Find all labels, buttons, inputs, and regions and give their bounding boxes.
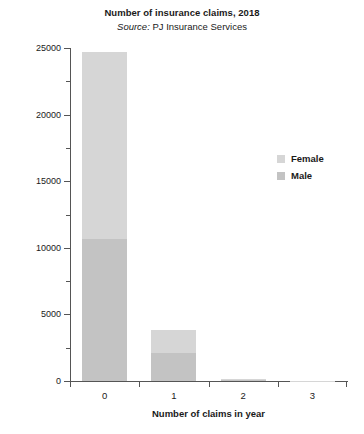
y-axis-tick bbox=[64, 181, 70, 182]
chart-title: Number of insurance claims, 2018 bbox=[0, 6, 364, 19]
y-axis-minor-tick bbox=[66, 348, 70, 349]
bar-segment-male[interactable] bbox=[82, 239, 127, 381]
insurance-claims-chart: Number of insurance claims, 2018 Source:… bbox=[0, 0, 364, 434]
y-axis-tick bbox=[64, 48, 70, 49]
bar-segment-female[interactable] bbox=[82, 52, 127, 239]
y-axis-tick-label: 15000 bbox=[36, 176, 61, 186]
x-axis-title: Number of claims in year bbox=[70, 408, 347, 419]
chart-title-block: Number of insurance claims, 2018 Source:… bbox=[0, 6, 364, 33]
y-axis-tick-label: 10000 bbox=[36, 243, 61, 253]
y-axis-minor-tick bbox=[66, 281, 70, 282]
bar-segment-male[interactable] bbox=[151, 353, 196, 381]
plot-area: Number of people making claims Number of… bbox=[70, 48, 347, 381]
y-axis-tick-label: 0 bbox=[56, 376, 61, 386]
chart-subtitle-source-word: Source: bbox=[117, 21, 150, 32]
y-axis-tick-label: 25000 bbox=[36, 43, 61, 53]
y-axis-minor-tick bbox=[66, 81, 70, 82]
chart-subtitle-source-name: PJ Insurance Services bbox=[150, 21, 247, 32]
x-axis-tick bbox=[278, 381, 279, 387]
legend-label: Female bbox=[291, 153, 324, 164]
legend-label: Male bbox=[291, 170, 312, 181]
x-axis-tick-label: 3 bbox=[310, 390, 315, 401]
legend-swatch-icon bbox=[277, 155, 285, 163]
x-axis-tick-label: 1 bbox=[171, 390, 176, 401]
x-axis-tick bbox=[209, 381, 210, 387]
chart-legend: FemaleMale bbox=[277, 150, 324, 184]
y-axis-tick bbox=[64, 314, 70, 315]
x-axis-tick bbox=[139, 381, 140, 387]
legend-item-female[interactable]: Female bbox=[277, 150, 324, 167]
y-axis-tick bbox=[64, 248, 70, 249]
legend-item-male[interactable]: Male bbox=[277, 167, 324, 184]
bar-segment-male[interactable] bbox=[221, 379, 266, 381]
y-axis-minor-tick bbox=[66, 148, 70, 149]
x-axis-tick bbox=[346, 381, 347, 387]
x-axis-tick-label: 2 bbox=[240, 390, 245, 401]
bar-group[interactable] bbox=[151, 330, 196, 381]
legend-swatch-icon bbox=[277, 172, 285, 180]
y-axis-tick bbox=[64, 115, 70, 116]
bar-group[interactable] bbox=[82, 52, 127, 381]
bar-group[interactable] bbox=[221, 379, 266, 381]
bar-segment-female[interactable] bbox=[221, 379, 266, 380]
y-axis-tick-label: 5000 bbox=[41, 309, 61, 319]
y-axis-tick-label: 20000 bbox=[36, 110, 61, 120]
chart-subtitle: Source: PJ Insurance Services bbox=[0, 20, 364, 33]
y-axis-minor-tick bbox=[66, 215, 70, 216]
x-axis-tick-label: 0 bbox=[102, 390, 107, 401]
bar-segment-female[interactable] bbox=[151, 330, 196, 353]
x-axis-tick bbox=[70, 381, 71, 387]
